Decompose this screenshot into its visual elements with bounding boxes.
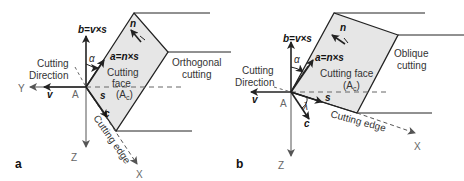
- n-vector-label: n: [340, 22, 346, 33]
- cutting-geometry-diagram: b=v×s a=n×s n α v s c A Cutting Directio…: [0, 0, 464, 181]
- z-axis-label: Z: [278, 160, 284, 171]
- y-axis-label: Y: [18, 83, 25, 94]
- orthogonal-cutting-label-1: Orthogonal: [172, 57, 221, 68]
- cutting-face-label-1: Cutting: [107, 67, 139, 78]
- s-vector-label: s: [325, 92, 331, 103]
- panel-a-orthogonal: b=v×s a=n×s n α v s c A Cutting Directio…: [15, 13, 231, 180]
- a-vector-label: a=n×s: [110, 51, 139, 62]
- x-axis-label: X: [414, 141, 421, 152]
- z-axis-label: Z: [71, 152, 77, 163]
- b-vector-label: b=v×s: [283, 33, 312, 44]
- panel-b-label: b: [236, 157, 243, 171]
- lambda-label: λ: [302, 101, 308, 112]
- oblique-cutting-label-2: cutting: [397, 60, 426, 71]
- s-vector-label: s: [100, 90, 106, 101]
- cutting-edge-label: Cutting edge: [329, 108, 387, 133]
- oblique-cutting-label-1: Oblique: [394, 48, 429, 59]
- cutting-face-label-2: face: [112, 78, 131, 89]
- c-vector-label: c: [104, 108, 110, 119]
- alpha-label: α: [89, 53, 95, 64]
- alpha-arc: [291, 67, 303, 72]
- orthogonal-cutting-label-2: cutting: [182, 69, 211, 80]
- cutting-direction-label-1: Cutting: [242, 65, 274, 76]
- cutting-direction-label-2: Direction: [29, 70, 68, 81]
- cutting-face-label-1: Cutting face: [320, 68, 374, 79]
- a-vector-label: a=n×s: [315, 52, 344, 63]
- v-vector-label: v: [47, 89, 54, 100]
- panel-b-oblique: b=v×s a=n×s n α λ v s c A Cutting Direct…: [235, 13, 464, 171]
- point-a-label: A: [72, 89, 79, 100]
- b-vector-label: b=v×s: [78, 24, 107, 35]
- point-a-label: A: [280, 98, 287, 109]
- cutting-face-label-3: (Ac): [116, 89, 133, 101]
- cutting-direction-line: [75, 67, 86, 87]
- cutting-direction-label-2: Direction: [235, 77, 274, 88]
- cutting-direction-label-1: Cutting: [37, 58, 69, 69]
- cutting-face-label-3: (Ac): [343, 80, 360, 92]
- v-vector-label: v: [252, 94, 259, 105]
- n-vector-label: n: [130, 18, 136, 29]
- alpha-label: α: [294, 54, 300, 65]
- x-axis-label: X: [136, 169, 143, 180]
- alpha-arc: [86, 64, 98, 68]
- panel-a-label: a: [15, 157, 22, 171]
- c-vector-label: c: [304, 118, 310, 129]
